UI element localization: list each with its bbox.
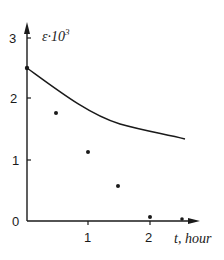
data-point xyxy=(86,150,90,154)
x-tick-label-1: 1 xyxy=(84,231,91,244)
y-tick-label-0: 0 xyxy=(12,215,19,228)
y-axis-title: ε·103 xyxy=(42,28,70,44)
data-point xyxy=(25,66,29,70)
y-tick-label-3: 3 xyxy=(9,32,16,45)
y-tick-label-2: 2 xyxy=(10,92,17,105)
chart-canvas xyxy=(0,0,224,260)
y-axis-title-exponent: 3 xyxy=(65,27,70,37)
y-axis-arrow-icon xyxy=(24,22,30,34)
x-axis-title: t, hour xyxy=(174,232,211,246)
data-point xyxy=(180,217,184,221)
x-axis-arrow-icon xyxy=(188,218,200,224)
x-tick-label-2: 2 xyxy=(145,231,152,244)
y-tick-label-1: 1 xyxy=(12,154,19,167)
data-point xyxy=(54,111,58,115)
data-point xyxy=(148,215,152,219)
y-axis-title-text: ε·10 xyxy=(42,29,65,44)
data-point xyxy=(116,184,120,188)
fit-curve xyxy=(27,68,185,139)
